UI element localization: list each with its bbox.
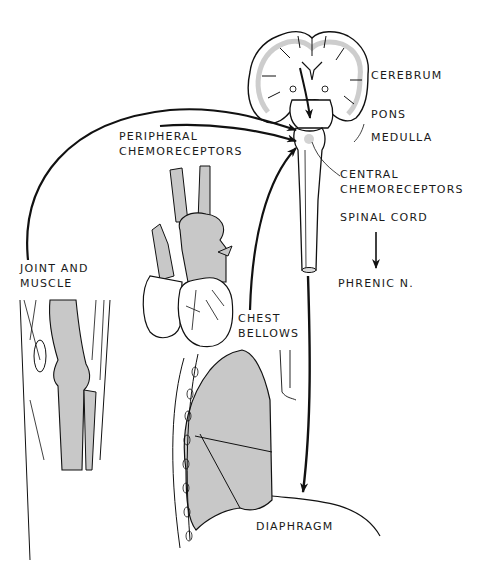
- knee-joint-illustration: [20, 300, 110, 560]
- label-peripheral-chemoreceptors-line1: PERIPHERAL: [119, 130, 198, 144]
- arrow-medulla-to-diaphragm: [303, 276, 310, 492]
- label-central-chemoreceptors-line2: CHEMORECEPTORS: [340, 183, 464, 197]
- label-chest-bellows-line2: BELLOWS: [238, 327, 299, 341]
- label-diaphragm: DIAPHRAGM: [256, 520, 334, 534]
- label-joint-muscle-line2: MUSCLE: [20, 277, 72, 291]
- label-chest-bellows-line1: CHEST: [238, 312, 281, 326]
- lung-illustration: [173, 350, 380, 548]
- label-medulla: MEDULLA: [371, 131, 432, 145]
- label-central-chemoreceptors-line1: CENTRAL: [340, 168, 399, 182]
- label-peripheral-chemoreceptors-line2: CHEMORECEPTORS: [119, 145, 243, 159]
- label-phrenic-nerve: PHRENIC N.: [338, 277, 414, 291]
- label-cerebrum: CEREBRUM: [371, 69, 443, 83]
- label-joint-muscle-line1: JOINT AND: [20, 262, 89, 276]
- label-spinal-cord: SPINAL CORD: [340, 211, 428, 225]
- heart-illustration: [143, 166, 232, 347]
- label-pons: PONS: [371, 108, 406, 122]
- arrow-chest-to-medulla: [250, 148, 296, 310]
